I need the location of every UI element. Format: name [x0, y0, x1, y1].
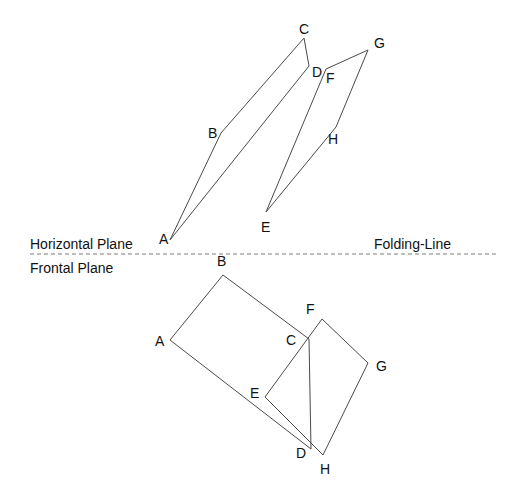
horizontal-vertex-label-h: H: [328, 131, 338, 147]
frontal-vertex-label-b: B: [217, 253, 226, 269]
horizontal-view-vertex-labels: ABCDEFGH: [159, 21, 385, 247]
horizontal-vertex-label-e: E: [261, 219, 270, 235]
horizontal-view-edges: [170, 38, 368, 240]
horizontal-edge-cd: [304, 38, 309, 66]
horizontal-edge-he: [266, 127, 336, 212]
folding-line-label: Folding-Line: [374, 236, 451, 252]
frontal-plane-label: Frontal Plane: [30, 260, 113, 276]
frontal-vertex-label-f: F: [306, 301, 315, 317]
horizontal-vertex-label-d: D: [312, 64, 322, 80]
frontal-vertex-label-g: G: [376, 358, 387, 374]
frontal-edge-da: [170, 340, 311, 449]
frontal-edge-ef: [265, 319, 322, 397]
frontal-edge-gh: [323, 363, 368, 455]
horizontal-edge-gh: [336, 50, 368, 127]
horizontal-edge-ef: [266, 69, 326, 212]
horizontal-vertex-label-b: B: [208, 125, 217, 141]
frontal-edge-he: [265, 397, 323, 455]
horizontal-edge-da: [170, 66, 309, 240]
horizontal-vertex-label-c: C: [299, 21, 309, 37]
frontal-view-edges: [170, 275, 368, 455]
horizontal-vertex-label-g: G: [374, 35, 385, 51]
horizontal-vertex-label-f: F: [326, 70, 335, 86]
frontal-vertex-label-h: H: [320, 461, 330, 477]
frontal-vertex-label-e: E: [250, 385, 259, 401]
horizontal-vertex-label-a: A: [159, 231, 169, 247]
frontal-edge-bc: [223, 275, 309, 339]
frontal-edge-ab: [170, 275, 223, 340]
projection-diagram: Horizontal Plane Frontal Plane Folding-L…: [0, 0, 520, 489]
horizontal-plane-label: Horizontal Plane: [30, 236, 133, 252]
frontal-edge-cd: [309, 339, 311, 449]
horizontal-edge-bc: [221, 38, 304, 133]
frontal-view-vertex-labels: ABCDEFGH: [155, 253, 387, 477]
frontal-vertex-label-d: D: [296, 445, 306, 461]
frontal-vertex-label-c: C: [286, 332, 296, 348]
frontal-edge-fg: [322, 319, 368, 363]
frontal-vertex-label-a: A: [155, 333, 165, 349]
